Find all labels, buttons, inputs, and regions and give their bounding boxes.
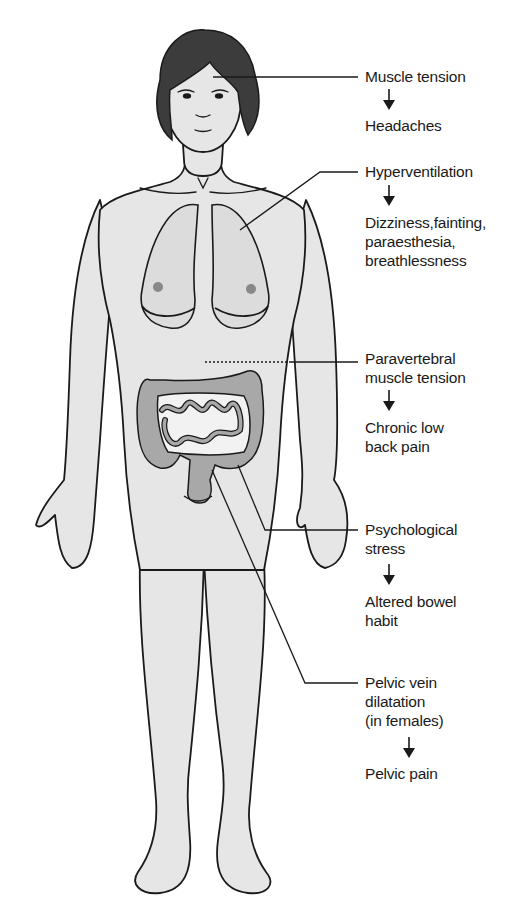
arrow-down-icon xyxy=(382,185,396,207)
right-leg xyxy=(204,560,270,893)
annotation-back-effect: Chronic low back pain xyxy=(365,418,444,456)
annotation-head-effect: Headaches xyxy=(365,116,442,135)
annotation-bowel-effect: Altered bowel habit xyxy=(365,592,456,630)
annotation-pelvis-effect: Pelvic pain xyxy=(365,764,438,783)
arrow-down-icon xyxy=(382,564,396,586)
left-nipple xyxy=(153,282,163,292)
annotation-back-cause: Paravertebral muscle tension xyxy=(365,349,466,387)
right-nipple xyxy=(246,284,256,294)
annotation-lungs-cause: Hyperventilation xyxy=(365,162,473,181)
torso xyxy=(99,150,306,570)
arrow-down-icon xyxy=(382,390,396,412)
annotation-bowel-cause: Psychological stress xyxy=(365,520,457,558)
arrow-down-icon xyxy=(382,89,396,111)
left-leg xyxy=(135,560,204,893)
annotation-lungs-effect: Dizziness,fainting, paraesthesia, breath… xyxy=(365,213,486,270)
annotation-pelvis-cause: Pelvic vein dilatation (in females) xyxy=(365,673,444,730)
annotation-head-cause: Muscle tension xyxy=(365,67,466,86)
body-figure xyxy=(0,0,528,913)
arrow-down-icon xyxy=(402,737,416,759)
